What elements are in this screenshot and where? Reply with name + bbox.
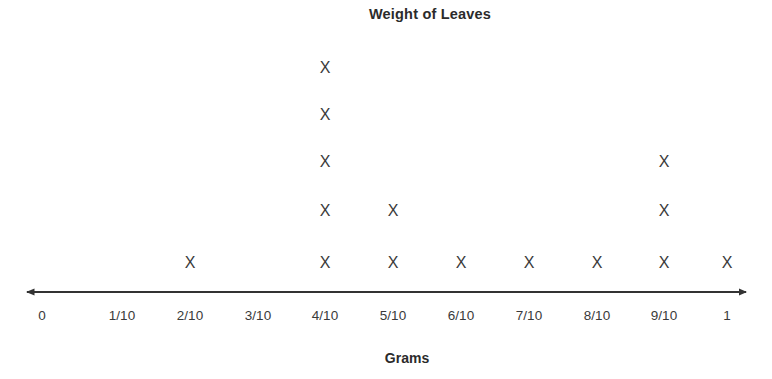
data-point-marker: X xyxy=(592,255,603,271)
data-point-marker: X xyxy=(320,203,331,219)
data-point-marker: X xyxy=(185,255,196,271)
data-point-marker: X xyxy=(320,255,331,271)
data-point-marker: X xyxy=(659,255,670,271)
tick-label: 0 xyxy=(38,308,46,323)
data-point-marker: X xyxy=(388,203,399,219)
tick-label: 1 xyxy=(723,308,731,323)
data-point-marker: X xyxy=(524,255,535,271)
data-point-marker: X xyxy=(320,60,331,76)
tick-label: 2/10 xyxy=(177,308,203,323)
data-point-marker: X xyxy=(320,154,331,170)
plot-area: XXXXXXXXXXXXXXX 01/102/103/104/105/106/1… xyxy=(0,0,772,379)
data-point-marker: X xyxy=(659,154,670,170)
data-point-marker: X xyxy=(320,107,331,123)
data-point-marker: X xyxy=(456,255,467,271)
dot-plot-figure: Weight of Leaves XXXXXXXXXXXXXXX 01/102/… xyxy=(0,0,772,379)
tick-label: 9/10 xyxy=(651,308,677,323)
tick-label: 7/10 xyxy=(516,308,542,323)
tick-label: 6/10 xyxy=(448,308,474,323)
tick-label: 1/10 xyxy=(109,308,135,323)
tick-label: 4/10 xyxy=(312,308,338,323)
data-point-marker: X xyxy=(659,203,670,219)
x-axis-title-text: Grams xyxy=(385,350,429,366)
tick-label: 5/10 xyxy=(380,308,406,323)
data-point-marker: X xyxy=(722,255,733,271)
tick-label: 3/10 xyxy=(245,308,271,323)
tick-label: 8/10 xyxy=(584,308,610,323)
data-point-marker: X xyxy=(388,255,399,271)
x-axis-title: Grams xyxy=(0,350,772,366)
